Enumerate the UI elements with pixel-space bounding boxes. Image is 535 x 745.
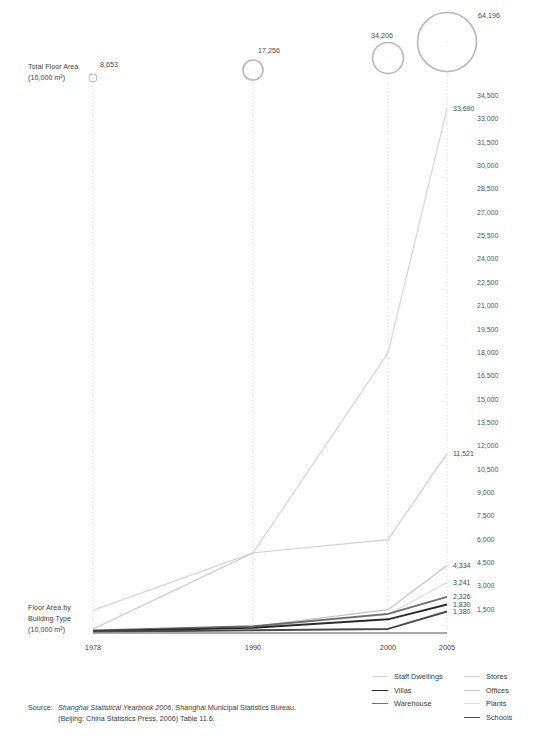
x-tick-2000: 2000 bbox=[368, 643, 408, 652]
bubble-center-dot-1990 bbox=[252, 69, 253, 70]
series-line-staff-dwellings bbox=[93, 109, 447, 611]
y-tick-22500: 22,500 bbox=[477, 279, 498, 286]
legend-label: Warehouse bbox=[394, 699, 432, 708]
y-tick-24000: 24,000 bbox=[477, 255, 498, 262]
series-line-stores bbox=[93, 454, 447, 629]
series-line-plants bbox=[93, 583, 447, 631]
source-publisher: . Shanghai Municipal Statistics Bureau. bbox=[171, 703, 296, 712]
legend-column-1: Staff DwellingsVillasWarehouse bbox=[372, 670, 443, 711]
y-tick-31500: 31,500 bbox=[477, 139, 498, 146]
legend-label: Staff Dwellings bbox=[394, 672, 443, 681]
end-label-warehouse: 2,326 bbox=[453, 593, 471, 600]
end-label-villas: 1,830 bbox=[453, 601, 471, 608]
series-line-offices bbox=[93, 566, 447, 632]
legend-label: Stores bbox=[486, 672, 507, 681]
y-tick-16500: 16,500 bbox=[477, 372, 498, 379]
bubble-label-2005: 64,196 bbox=[478, 11, 500, 20]
bubbles-group bbox=[89, 13, 477, 83]
source-title: Shanghai Statistical Yearbook 2006 bbox=[58, 703, 171, 712]
legend-item-villas[interactable]: Villas bbox=[372, 684, 443, 698]
y-tick-1500: 1,500 bbox=[477, 606, 495, 613]
legend-swatch-icon bbox=[464, 676, 480, 677]
legend-item-warehouse[interactable]: Warehouse bbox=[372, 697, 443, 711]
y-tick-34500: 34,500 bbox=[477, 92, 498, 99]
legend-item-schools[interactable]: Schools bbox=[464, 711, 512, 725]
legend-swatch-icon bbox=[464, 703, 480, 704]
total-floor-area-axis-label: Total Floor Area (10,000 m²) bbox=[28, 62, 98, 84]
gridlines-group bbox=[93, 72, 447, 633]
y-tick-27000: 27,000 bbox=[477, 209, 498, 216]
y-tick-30000: 30,000 bbox=[477, 162, 498, 169]
end-label-stores: 11,521 bbox=[453, 450, 474, 457]
legend-item-plants[interactable]: Plants bbox=[464, 697, 512, 711]
bubble-label-1990: 17,256 bbox=[258, 46, 280, 55]
x-tick-1978: 1978 bbox=[73, 643, 113, 652]
series-lines-group bbox=[93, 109, 447, 632]
y-tick-12000: 12,000 bbox=[477, 442, 498, 449]
floor-area-label-line2: Building Type bbox=[28, 614, 98, 625]
y-tick-3000: 3,000 bbox=[477, 582, 495, 589]
legend-label: Plants bbox=[486, 699, 507, 708]
end-label-plants: 3,241 bbox=[453, 579, 471, 586]
legend-label: Villas bbox=[394, 686, 412, 695]
floor-area-by-type-axis-label: Floor Area by Building Type (10,000 m²) bbox=[28, 603, 98, 635]
y-tick-4500: 4,500 bbox=[477, 559, 495, 566]
bubble-label-2000: 34,206 bbox=[371, 31, 393, 40]
y-tick-9000: 9,000 bbox=[477, 489, 495, 496]
total-floor-area-label-line2: (10,000 m²) bbox=[28, 73, 98, 84]
source-line2: (Beijing: China Statistics Press, 2006) … bbox=[58, 713, 296, 724]
end-label-staff-dwellings: 33,690 bbox=[453, 105, 474, 112]
x-tick-1990: 1990 bbox=[233, 643, 273, 652]
legend-item-offices[interactable]: Offices bbox=[464, 684, 512, 698]
legend-swatch-icon bbox=[372, 676, 388, 677]
x-tick-2005: 2005 bbox=[427, 643, 467, 652]
legend-item-staff-dwellings[interactable]: Staff Dwellings bbox=[372, 670, 443, 684]
y-tick-19500: 19,500 bbox=[477, 326, 498, 333]
y-tick-10500: 10,500 bbox=[477, 466, 498, 473]
bubble-label-1978: 8,653 bbox=[100, 60, 118, 69]
legend-swatch-icon bbox=[372, 703, 388, 704]
y-tick-18000: 18,000 bbox=[477, 349, 498, 356]
y-tick-28500: 28,500 bbox=[477, 185, 498, 192]
bubble-center-dot-2000 bbox=[387, 57, 388, 58]
floor-area-label-line1: Floor Area by bbox=[28, 603, 98, 614]
y-tick-33000: 33,000 bbox=[477, 115, 498, 122]
legend-label: Schools bbox=[486, 713, 512, 722]
source-prefix: Source: bbox=[28, 702, 58, 713]
series-line-warehouse bbox=[93, 597, 447, 631]
bubble-center-dot-2005 bbox=[446, 41, 447, 42]
y-tick-21000: 21,000 bbox=[477, 302, 498, 309]
legend-swatch-icon bbox=[464, 717, 480, 718]
y-tick-7500: 7,500 bbox=[477, 512, 495, 519]
floor-area-label-line3: (10,000 m²) bbox=[28, 625, 98, 636]
legend-swatch-icon bbox=[372, 690, 388, 691]
y-tick-25500: 25,500 bbox=[477, 232, 498, 239]
y-tick-13500: 13,500 bbox=[477, 419, 498, 426]
y-tick-6000: 6,000 bbox=[477, 536, 495, 543]
total-floor-area-label-line1: Total Floor Area bbox=[28, 62, 98, 73]
source-note: Source:Shanghai Statistical Yearbook 200… bbox=[28, 702, 296, 724]
legend-label: Offices bbox=[486, 686, 509, 695]
y-tick-15000: 15,000 bbox=[477, 396, 498, 403]
legend-column-2: StoresOfficesPlantsSchools bbox=[464, 670, 512, 724]
legend-swatch-icon bbox=[464, 690, 480, 691]
end-label-schools: 1,380 bbox=[453, 608, 471, 615]
chart-canvas: Total Floor Area (10,000 m²) Floor Area … bbox=[0, 0, 535, 745]
end-label-offices: 4,334 bbox=[453, 562, 471, 569]
legend-item-stores[interactable]: Stores bbox=[464, 670, 512, 684]
